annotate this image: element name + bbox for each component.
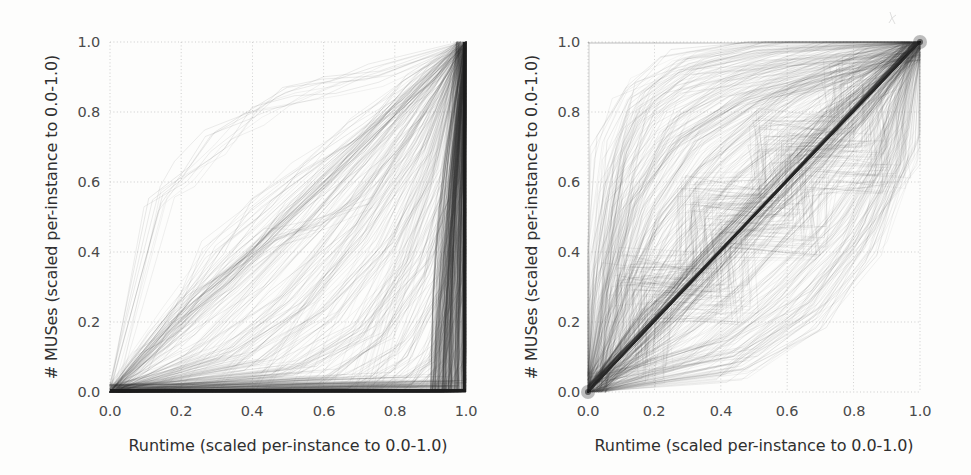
right-ytick-3: 0.6 [540,175,580,190]
right-xtick-5: 1.0 [909,404,931,419]
left-xtick-0: 0.0 [99,404,121,419]
diagonal-endpoint-core [585,389,591,395]
right-ytick-0: 0.0 [540,385,580,400]
right-xtick-3: 0.6 [776,404,798,419]
chart-panel-left: 1.0 0.8 0.6 0.4 0.2 0.0 0.0 0.2 0.4 0.6 … [0,0,485,475]
left-ytick-2: 0.4 [60,245,100,260]
right-yaxis-title: # MUSes (scaled per-instance to 0.0-1.0) [524,55,540,379]
left-xtick-4: 0.8 [384,404,406,419]
left-xtick-1: 0.2 [170,404,192,419]
left-yaxis-title: # MUSes (scaled per-instance to 0.0-1.0) [44,55,60,379]
right-ytick-1: 0.2 [540,315,580,330]
left-ytick-5: 1.0 [60,35,100,50]
figure-container: 1.0 0.8 0.6 0.4 0.2 0.0 0.0 0.2 0.4 0.6 … [0,0,971,475]
left-ytick-3: 0.6 [60,175,100,190]
right-plot-area [588,42,920,392]
right-ytick-2: 0.4 [540,245,580,260]
right-xtick-4: 0.8 [843,404,865,419]
left-ytick-0: 0.0 [60,385,100,400]
left-ytick-4: 0.8 [60,105,100,120]
chart-panel-right: 1.0 0.8 0.6 0.4 0.2 0.0 0.0 0.2 0.4 0.6 … [485,0,971,475]
right-ytick-5: 1.0 [540,35,580,50]
diagonal-endpoint-core [917,39,923,45]
right-xtick-2: 0.4 [710,404,732,419]
right-ytick-4: 0.8 [540,105,580,120]
right-xtick-1: 0.2 [643,404,665,419]
left-xtick-3: 0.6 [313,404,335,419]
left-xtick-5: 1.0 [455,404,477,419]
left-xaxis-title: Runtime (scaled per-instance to 0.0-1.0) [129,438,448,454]
scan-artifact-icon [886,10,900,28]
left-ytick-1: 0.2 [60,315,100,330]
left-xtick-2: 0.4 [241,404,263,419]
right-xaxis-title: Runtime (scaled per-instance to 0.0-1.0) [595,438,914,454]
left-plot-area [110,42,466,392]
right-xtick-0: 0.0 [577,404,599,419]
